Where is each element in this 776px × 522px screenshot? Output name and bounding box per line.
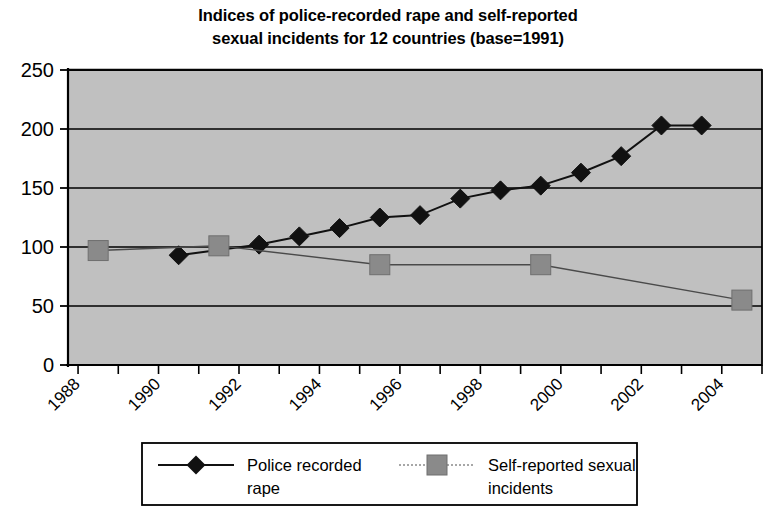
chart-plot-area: 050100150200250 198819901992199419961998… <box>0 0 776 522</box>
data-point-marker-square <box>732 290 752 310</box>
y-tick-label: 250 <box>21 59 54 81</box>
x-tick-label: 1996 <box>366 374 406 414</box>
x-tick-label: 1988 <box>44 374 84 414</box>
x-tick-label: 1998 <box>446 374 486 414</box>
data-point-marker-square <box>209 236 229 256</box>
chart-title-line-1: Indices of police-recorded rape and self… <box>0 4 776 27</box>
chart-title-line-2: sexual incidents for 12 countries (base=… <box>0 27 776 50</box>
legend-label-line-1: Self-reported sexual <box>488 456 636 474</box>
x-tick-label: 2002 <box>607 374 647 414</box>
x-axis-labels: 198819901992199419961998200020022004 <box>44 374 728 414</box>
legend-label-line-1: Police recorded <box>247 456 362 474</box>
legend-label-line-2: incidents <box>488 479 553 497</box>
x-tick-label: 1990 <box>124 374 164 414</box>
legend-label-line-2: rape <box>247 479 280 497</box>
y-tick-label: 50 <box>32 295 54 317</box>
y-tick-label: 150 <box>21 177 54 199</box>
chart-figure: Indices of police-recorded rape and self… <box>0 0 776 522</box>
data-point-marker-square <box>88 241 108 261</box>
data-point-marker-square <box>370 255 390 275</box>
x-tick-label: 2004 <box>687 374 727 414</box>
legend-box <box>142 443 637 505</box>
y-tick-label: 0 <box>43 354 54 376</box>
chart-title: Indices of police-recorded rape and self… <box>0 4 776 50</box>
x-tick-label: 2000 <box>526 374 566 414</box>
x-tick-label: 1994 <box>285 374 325 414</box>
y-tick-label: 200 <box>21 118 54 140</box>
y-tick-label: 100 <box>21 236 54 258</box>
data-point-marker-square <box>531 255 551 275</box>
legend-marker-square <box>427 455 447 475</box>
chart-legend: Police recordedrapeSelf-reported sexuali… <box>142 443 637 505</box>
y-axis-labels: 050100150200250 <box>21 59 54 376</box>
x-tick-label: 1992 <box>205 374 245 414</box>
